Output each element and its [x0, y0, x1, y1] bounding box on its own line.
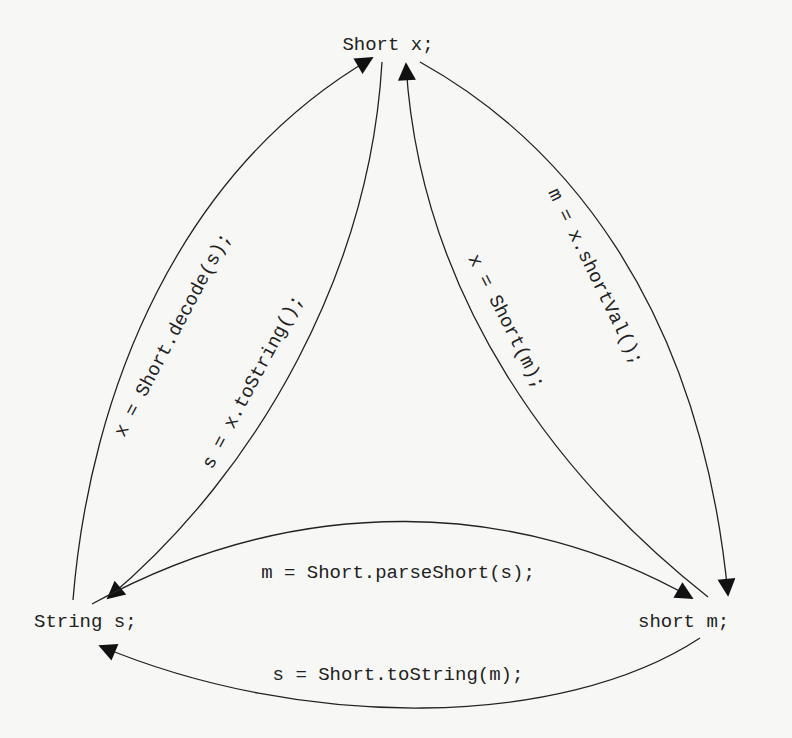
- label-parse: m = Short.parseShort(s);: [261, 562, 535, 584]
- node-short-object: Short x;: [342, 34, 433, 56]
- edge-decode: [73, 58, 372, 600]
- label-tostring-static: s = Short.toString(m);: [273, 664, 524, 686]
- label-tostring-obj: s = x.toString();: [198, 291, 308, 472]
- node-string: String s;: [34, 611, 137, 633]
- edge-shortval: [420, 62, 728, 595]
- label-shortval: m = x.shortVal();: [543, 185, 648, 369]
- node-short-primitive: short m;: [638, 611, 729, 633]
- conversion-diagram: Short x; String s; short m; x = Short.de…: [0, 0, 792, 738]
- edge-constructor: [406, 64, 708, 597]
- label-constructor: x = Short(m);: [463, 251, 550, 393]
- label-decode: x = Short.decode(s);: [110, 229, 236, 441]
- edge-tostring-obj: [108, 62, 382, 598]
